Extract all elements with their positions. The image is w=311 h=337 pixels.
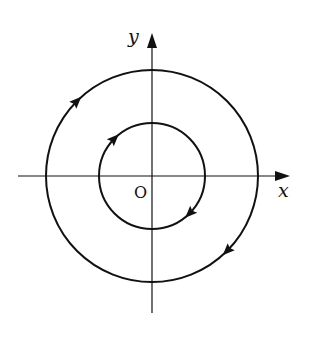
y-axis-label: y: [127, 25, 139, 47]
origin-label: O: [134, 183, 147, 202]
phase-portrait-diagram: y x O: [0, 0, 311, 337]
y-axis-arrow-icon: [147, 33, 157, 48]
x-axis-label: x: [278, 179, 289, 201]
